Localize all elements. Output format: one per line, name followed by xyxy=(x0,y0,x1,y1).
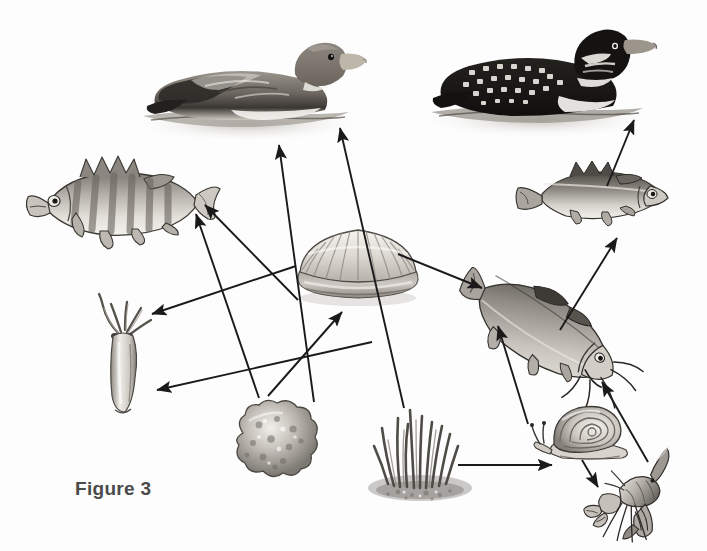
arrow-sponge-to-perch xyxy=(196,214,259,398)
arrow-clam-to-catfish xyxy=(398,254,482,288)
arrow-layer xyxy=(0,0,707,551)
arrow-clam-to-perch xyxy=(205,205,298,300)
arrow-snail-to-crayfish xyxy=(582,460,598,487)
arrow-plants-to-duck xyxy=(340,128,404,408)
arrow-catfish-to-small-fish xyxy=(560,238,617,330)
figure-canvas: Figure 3 xyxy=(0,0,707,551)
arrow-clam-to-hydra xyxy=(152,266,296,314)
arrow-sponge-to-clam xyxy=(268,312,342,396)
arrow-small-fish-to-loon xyxy=(607,120,634,186)
figure-caption: Figure 3 xyxy=(75,478,151,500)
arrow-snail-to-catfish xyxy=(498,326,528,424)
arrow-crayfish-to-catfish xyxy=(602,382,648,462)
arrow-plants-to-hydra xyxy=(157,342,372,390)
